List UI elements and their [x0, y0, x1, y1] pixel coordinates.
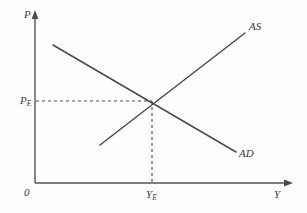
equilibrium-price-subscript: E: [27, 99, 32, 108]
x-axis-label: Y: [274, 189, 280, 200]
equilibrium-output-label: YE: [146, 189, 157, 200]
ad-curve-label: AD: [239, 148, 254, 159]
equilibrium-price-label: PE: [20, 95, 31, 106]
y-axis-label: P: [24, 9, 31, 20]
equilibrium-price-letter: P: [20, 94, 27, 106]
y-axis: [32, 10, 39, 183]
y-axis-arrowhead: [32, 10, 39, 19]
as-curve-label: AS: [249, 21, 261, 32]
origin-label: 0: [24, 187, 30, 198]
equilibrium-output-subscript: E: [152, 193, 157, 202]
x-axis: [35, 180, 293, 187]
as-curve: [100, 33, 245, 145]
x-axis-arrowhead: [284, 180, 293, 187]
as-ad-diagram: P Y 0 PE YE AS AD: [0, 0, 307, 213]
